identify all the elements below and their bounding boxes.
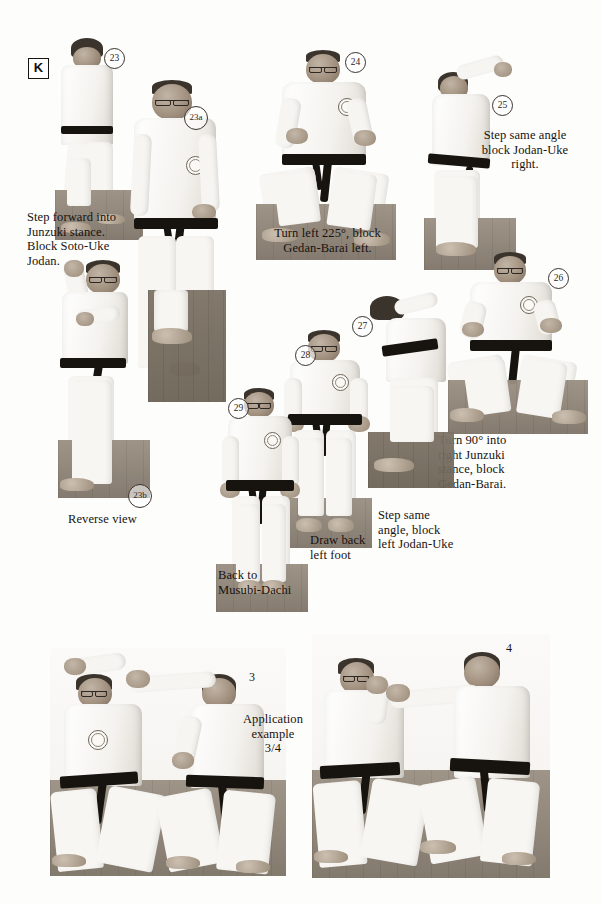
figure-number-26: 26	[548, 268, 569, 289]
figure-number-25: 25	[492, 95, 513, 116]
caption-step-29: Back to Musubi-Dachi	[218, 568, 348, 597]
caption-step-28: Draw back left foot	[310, 533, 420, 562]
application-label-right: 4	[506, 641, 512, 656]
figure-number-29: 29	[228, 398, 249, 419]
figure-number-28: 28	[295, 345, 316, 366]
figure-number-23b: 23b	[128, 484, 152, 508]
figure-number-23: 23	[104, 48, 125, 69]
photo-figure-23b	[58, 260, 158, 500]
photo-foot-inset-23b	[148, 290, 226, 402]
book-page: K 23 Step forward into Junzuki stance. B…	[0, 0, 602, 904]
application-label-left: 3	[249, 670, 255, 685]
caption-step-24: Turn left 225°, block Gedan-Barai left.	[240, 226, 415, 255]
caption-reverse-view: Reverse view	[68, 512, 178, 527]
caption-step-25: Step same angle block Jodan-Uke right.	[452, 128, 598, 172]
section-letter-box: K	[28, 58, 49, 79]
caption-application-example: Application example 3/4	[226, 712, 320, 756]
figure-number-23a: 23a	[184, 106, 208, 130]
photo-application-4	[312, 634, 550, 878]
photo-figure-27	[368, 296, 474, 492]
figure-number-24: 24	[345, 52, 366, 73]
